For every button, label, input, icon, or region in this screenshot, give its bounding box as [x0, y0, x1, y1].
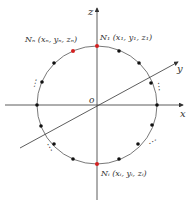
y-axis-label: y [176, 63, 183, 74]
point-n1 [95, 44, 99, 48]
coordinate-diagram: z y x o N₁ (x₁, y₁, z₁) Nₙ (xₙ, yₙ, zₙ) … [0, 0, 190, 202]
ellipsis-right-top: ⋮ [152, 80, 164, 92]
ellipsis-left-top: ⋮ [30, 78, 39, 88]
label-n1: N₁ (x₁, y₁, z₁) [99, 33, 152, 42]
label-ni: Nᵢ (xᵢ, yᵢ, zᵢ) [100, 169, 147, 178]
x-axis-label: x [180, 108, 186, 119]
label-nn: Nₙ (xₙ, yₙ, zₙ) [24, 35, 77, 44]
point-nn [71, 49, 75, 53]
origin-label: o [89, 95, 95, 105]
diagram-canvas: z y x o N₁ (x₁, y₁, z₁) Nₙ (xₙ, yₙ, zₙ) … [0, 0, 190, 202]
point-ni [95, 162, 99, 166]
z-axis-label: z [87, 6, 94, 17]
